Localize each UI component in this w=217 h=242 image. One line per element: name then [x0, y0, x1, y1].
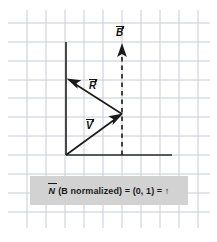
vector-v-label: V — [86, 120, 93, 131]
vector-b-label: B — [116, 27, 123, 38]
vector-v-solid — [66, 114, 123, 156]
caption: N (B normalized) = (0, 1) = ↑ — [30, 176, 188, 205]
vector-diagram-figure: B R V N (B normalized) = (0, 1) = ↑ — [0, 0, 217, 242]
vector-v-overbar-tip — [91, 119, 94, 122]
caption-rest-text: (B normalized) = (0, 1) = ↑ — [58, 186, 169, 196]
caption-vector-symbol: N — [49, 186, 56, 196]
vector-r-shaft — [75, 84, 122, 114]
diagram-canvas — [0, 0, 217, 242]
vector-r-label: R — [89, 80, 96, 91]
